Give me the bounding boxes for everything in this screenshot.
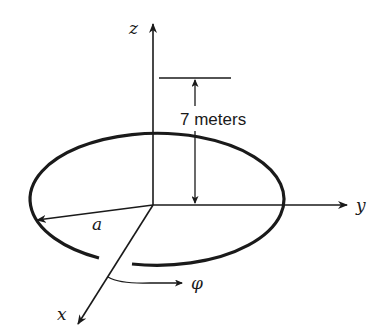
radius-label: a: [92, 214, 102, 234]
loop-diagram: z y x a 7 meters φ: [0, 0, 387, 336]
phi-arc-arrow: [108, 277, 182, 283]
height-label: 7 meters: [180, 110, 246, 129]
z-axis-label: z: [128, 18, 139, 38]
y-axis-label: y: [355, 195, 366, 215]
current-loop: [30, 133, 284, 265]
phi-label: φ: [191, 273, 203, 293]
x-axis-label: x: [57, 304, 67, 324]
